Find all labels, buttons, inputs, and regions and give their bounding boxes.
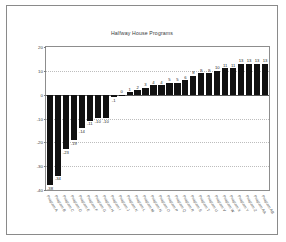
y-tick-label: -20 (37, 140, 43, 145)
y-tick-mark (44, 71, 46, 72)
bar (198, 73, 204, 94)
bar (206, 73, 212, 94)
bar (214, 71, 220, 95)
bar (142, 88, 148, 95)
y-tick-label: 10 (38, 68, 43, 73)
y-tick-mark (44, 95, 46, 96)
bar (182, 80, 188, 94)
y-tick-label: -10 (37, 116, 43, 121)
bar-value-label: -34 (52, 176, 64, 181)
bar (95, 95, 101, 119)
bar-value-label: -23 (60, 150, 72, 155)
bar (134, 90, 140, 95)
bar (87, 95, 93, 121)
y-tick-mark (44, 142, 46, 143)
bar (55, 95, 61, 176)
y-tick-label: 0 (41, 92, 43, 97)
bar-value-label: -1 (108, 98, 120, 103)
figure-frame: Halfway House Programs Change in Recidiv… (6, 5, 278, 235)
y-tick-mark (44, 47, 46, 48)
bar-value-label: -19 (68, 141, 80, 146)
bar (127, 92, 133, 94)
gridline (46, 166, 269, 167)
bar-value-label: -14 (76, 129, 88, 134)
plot-area: 20100-10-20-30-40 -38-34-23-19-14-11-10-… (45, 46, 270, 191)
bar-value-label: -38 (44, 186, 56, 191)
y-tick-mark (44, 166, 46, 167)
y-tick-label: 20 (38, 45, 43, 50)
bar (238, 64, 244, 95)
bar-value-label: 13 (259, 58, 271, 63)
y-tick-label: -30 (37, 164, 43, 169)
bar (262, 64, 268, 95)
bar (190, 76, 196, 95)
bar (230, 68, 236, 94)
y-tick-label: -40 (37, 188, 43, 193)
chart-title: Halfway House Programs (7, 30, 277, 36)
y-tick-mark (44, 119, 46, 120)
bar (47, 95, 53, 186)
bar (119, 95, 125, 96)
bar (166, 83, 172, 95)
bar (222, 68, 228, 94)
bar (254, 64, 260, 95)
bar (150, 85, 156, 95)
bar (246, 64, 252, 95)
bar (158, 85, 164, 95)
bar-value-label: -10 (100, 119, 112, 124)
bar (174, 83, 180, 95)
